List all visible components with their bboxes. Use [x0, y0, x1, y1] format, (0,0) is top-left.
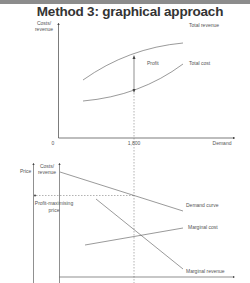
profit-label: Profit [147, 60, 159, 66]
marginal-revenue-curve [96, 199, 183, 269]
profit-maximising-price-label-2: price [49, 207, 60, 213]
top-graph: Costs/ revenue 0 1,800 Demand Total reve… [35, 20, 234, 146]
price-axis-label: Price [20, 168, 32, 174]
economics-diagram: Costs/ revenue 0 1,800 Demand Total reve… [0, 0, 250, 283]
profit-maximising-price-label: Profit-maximising [35, 200, 74, 206]
total-revenue-label: Total revenue [189, 22, 219, 28]
price-marker [34, 195, 36, 197]
top-y-axis-label-2: revenue [35, 26, 53, 32]
origin-label: 0 [52, 140, 55, 146]
bottom-graph: Price Costs/ revenue Demand curve Profit… [20, 163, 234, 283]
marginal-cost-curve [85, 228, 183, 245]
bottom-y-axis-label-2: revenue [38, 169, 56, 175]
total-revenue-curve [83, 43, 183, 80]
total-cost-curve [83, 64, 183, 101]
marginal-cost-label: Marginal cost [188, 224, 218, 230]
demand-curve-label: Demand curve [186, 202, 219, 208]
top-x-axis-label: Demand [213, 140, 232, 146]
demand-curve [60, 172, 183, 211]
total-cost-label: Total cost [189, 60, 211, 66]
marginal-revenue-label: Marginal revenue [186, 268, 225, 274]
